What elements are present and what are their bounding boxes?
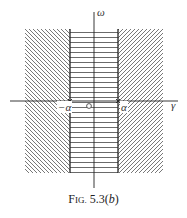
figure-caption: FIG. 5.3(b) <box>0 192 187 207</box>
right-mark-label: α <box>120 101 128 113</box>
left-mark-label: −α <box>57 101 72 113</box>
y-axis-label: ω <box>97 6 105 18</box>
origin-circle <box>87 104 92 109</box>
x-axis-label: γ <box>171 99 175 111</box>
strip-diagram <box>0 0 187 218</box>
